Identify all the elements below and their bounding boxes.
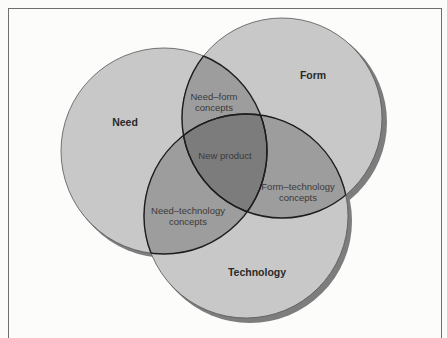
need-technology-label-line2: concepts — [169, 216, 207, 227]
form-technology-label-line2: concepts — [279, 192, 317, 203]
need-form-label-line2: concepts — [195, 102, 233, 113]
form-technology-label-line1: Form–technology — [261, 181, 335, 192]
new-product-label: New product — [198, 150, 252, 161]
need-form-label-line1: Need–form — [191, 91, 238, 102]
need-technology-label-line1: Need–technology — [151, 205, 225, 216]
technology-label: Technology — [228, 266, 286, 278]
need-label: Need — [112, 116, 138, 128]
form-label: Form — [300, 69, 326, 81]
